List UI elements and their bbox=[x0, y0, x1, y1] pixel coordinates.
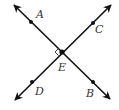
right-angle-marker bbox=[55, 49, 59, 56]
point-b bbox=[91, 80, 95, 84]
label-c: C bbox=[95, 23, 104, 36]
label-d: D bbox=[34, 85, 44, 98]
perpendicular-lines-diagram: A C D B E bbox=[0, 0, 119, 110]
point-d bbox=[30, 80, 34, 84]
diagram-svg: A C D B E bbox=[0, 0, 119, 110]
label-e: E bbox=[57, 61, 66, 74]
point-e bbox=[59, 49, 64, 54]
point-a bbox=[29, 20, 33, 24]
label-b: B bbox=[85, 87, 94, 100]
label-a: A bbox=[35, 8, 44, 21]
